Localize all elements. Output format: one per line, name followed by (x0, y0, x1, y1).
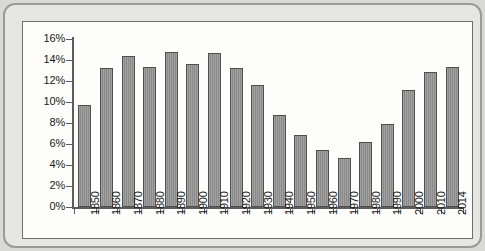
y-axis-tick-label: 2% (25, 180, 65, 191)
x-axis-tick-label: 1940 (284, 191, 295, 215)
plot-area: 0%2%4%6%8%10%12%14%16% 18501860187018801… (23, 22, 474, 240)
x-axis-tick-label: 1880 (155, 191, 166, 215)
x-axis-tick-label: 1980 (371, 191, 382, 215)
y-axis-tick-label: 10% (25, 96, 65, 107)
x-axis-tick-label: 1910 (219, 191, 230, 215)
x-axis-tick-label: 1850 (90, 191, 101, 215)
bar (100, 68, 113, 207)
bar (122, 56, 135, 207)
y-axis-tick-label: 14% (25, 54, 65, 65)
y-axis-tick-label: 4% (25, 159, 65, 170)
y-axis-labels: 0%2%4%6%8%10%12%14%16% (23, 22, 65, 240)
x-axis-tick-label: 1890 (176, 191, 187, 215)
x-axis-tick-label: 2000 (414, 191, 425, 215)
x-axis-tick-label: 2010 (436, 191, 447, 215)
y-axis-line (72, 37, 74, 209)
x-axis-tick-label: 1870 (133, 191, 144, 215)
bar (143, 67, 156, 207)
x-axis-tick-label: 1970 (349, 191, 360, 215)
x-axis-tick-label: 1920 (241, 191, 252, 215)
x-axis-tick-label: 1930 (263, 191, 274, 215)
y-axis-tick-label: 6% (25, 138, 65, 149)
x-axis-tick-label: 1990 (392, 191, 403, 215)
bar (165, 52, 178, 207)
y-axis-tick-label: 16% (25, 33, 65, 44)
bar (208, 53, 221, 207)
chart-outer-frame: 0%2%4%6%8%10%12%14%16% 18501860187018801… (3, 3, 482, 248)
chart-page: 0%2%4%6%8%10%12%14%16% 18501860187018801… (0, 0, 485, 251)
x-axis-tick-label: 1950 (306, 191, 317, 215)
x-axis-tick (74, 209, 75, 214)
y-axis-tick-label: 8% (25, 117, 65, 128)
y-axis-tick-label: 12% (25, 75, 65, 86)
bar (446, 67, 459, 207)
x-axis-tick-label: 2014 (457, 191, 468, 215)
bar (424, 72, 437, 207)
x-axis-tick-label: 1960 (328, 191, 339, 215)
bar (186, 64, 199, 207)
bar (230, 68, 243, 207)
x-axis-tick-label: 1900 (198, 191, 209, 215)
bar (251, 85, 264, 207)
x-axis-tick-label: 1860 (111, 191, 122, 215)
y-axis-tick-label: 0% (25, 201, 65, 212)
bar (402, 90, 415, 207)
chart-panel: 0%2%4%6%8%10%12%14%16% 18501860187018801… (22, 21, 473, 239)
